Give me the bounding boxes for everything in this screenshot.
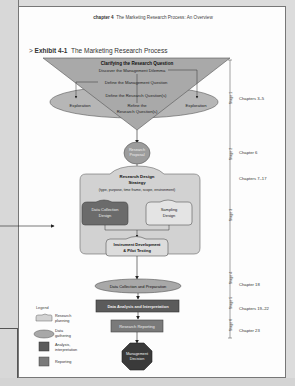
sampling-design-1: Sampling (161, 207, 178, 212)
bottom-margin (0, 378, 295, 386)
margin-mark-line (0, 328, 18, 329)
legend-reporting-swatch (39, 357, 49, 366)
legend: Legend Research planning Data gathering … (34, 306, 77, 366)
chapter-label-5: Chapters 19–22 (239, 306, 269, 311)
decision-line2: Decision (130, 357, 145, 361)
chapter-label-6: Chapter 23 (239, 328, 260, 333)
chapter-labels: Chapters 3–5 Chapter 6 Chapters 7–17 Cha… (239, 96, 269, 333)
step-discover: Discover the Management Dilemma (99, 68, 166, 73)
research-reporting-label: Research Reporting (119, 324, 155, 329)
stage-2-label: Stage 2 (229, 148, 233, 160)
sampling-design-2: Design (163, 213, 175, 218)
legend-reporting-1: Reporting (55, 360, 71, 364)
stage-6-label: Stage 6 (229, 319, 233, 331)
data-collection-label: Data Collection and Preparation (110, 284, 167, 289)
legend-gathering-swatch (34, 330, 54, 338)
proposal-line2: Proposal (130, 153, 145, 157)
legend-gathering-1: Data (55, 329, 64, 333)
step-refine-1: Refine the (127, 103, 147, 108)
design-title-2: Strategy (128, 180, 146, 185)
instrument-2: & Pilot Testing (123, 248, 151, 253)
step-define-management: Define the Management Question (105, 80, 168, 85)
process-diagram: Clarifying the Research Question Discove… (0, 0, 295, 386)
decision-line1: Management (126, 352, 149, 356)
proposal-line1: Research (129, 148, 145, 152)
design-subtitle: (type, purpose, time frame, scope, envir… (99, 188, 176, 192)
step-refine-2: Research Question(s) (117, 109, 158, 114)
legend-planning-swatch (36, 314, 52, 321)
chapter-label-3: Chapters 7–17 (239, 176, 267, 181)
stage-4-label: Stage 4 (229, 272, 233, 284)
exploration-right: Exploration (186, 103, 208, 108)
legend-planning-1: Research (55, 314, 71, 318)
legend-title: Legend (36, 306, 49, 310)
step-define-research: Define the Research Question(s) (106, 93, 168, 98)
legend-planning-2: planning (55, 319, 69, 323)
clarifying-title: Clarifying the Research Question (101, 61, 174, 66)
stage-5-label: Stage 5 (229, 297, 233, 309)
stage-3-label: Stage 3 (229, 209, 233, 221)
chapter-label-2: Chapter 6 (239, 150, 258, 155)
instrument-1: Instrument Development (114, 242, 162, 247)
chapter-label-4: Chapter 18 (239, 282, 260, 287)
exploration-left: Exploration (70, 103, 92, 108)
data-analysis-label: Data Analysis and Interpretation (107, 304, 169, 309)
design-title-1: Research Design (120, 174, 155, 179)
stage-labels: Stage 1 Stage 2 Stage 3 Stage 4 Stage 5 … (229, 92, 233, 331)
data-collection-design-2: Design (99, 213, 111, 218)
chapter-label-1: Chapters 3–5 (239, 96, 265, 101)
legend-analysis-swatch (39, 342, 49, 351)
data-collection-design-1: Data Collection (91, 207, 118, 212)
legend-analysis-1: Analysis, (55, 343, 70, 347)
legend-analysis-2: interpretation (55, 348, 77, 352)
legend-gathering-2: gathering (55, 334, 71, 338)
stage-1-label: Stage 1 (229, 92, 233, 104)
